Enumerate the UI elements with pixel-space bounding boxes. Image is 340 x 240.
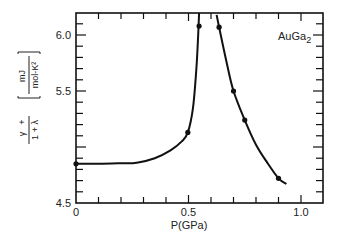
data-curves [76, 13, 286, 184]
y-unit-denominator: mol-K² [30, 62, 40, 89]
series-curve [217, 15, 287, 184]
x-tick-labels: 00.51.0 [73, 206, 309, 218]
x-tick-label: 1.0 [293, 206, 308, 218]
y-unit-bracket-right [18, 52, 40, 54]
y-tick-label: 6.0 [56, 29, 71, 41]
y-title-plus: + [17, 119, 27, 124]
data-point-marker [217, 25, 222, 30]
x-tick-label: 0.5 [181, 206, 196, 218]
x-axis-title: P(GPa) [171, 219, 208, 231]
data-point-marker [231, 88, 236, 93]
data-point-marker [185, 130, 190, 135]
y-axis-title: γ + 1 + λ mJ mol-K² [17, 52, 40, 144]
series-curve [76, 13, 199, 164]
data-point-marker [73, 161, 78, 166]
y-title-gamma: γ [17, 131, 27, 136]
y-tick-label: 5.5 [56, 85, 71, 97]
data-point-marker [242, 118, 247, 123]
y-unit-bracket-left [18, 96, 40, 98]
annotation-text: AuGa [278, 30, 307, 42]
y-unit-numerator: mJ [17, 70, 27, 82]
y-title-denominator: 1 + λ [30, 120, 40, 140]
data-markers [73, 23, 281, 181]
y-tick-labels: 4.55.56.0 [56, 29, 71, 209]
x-tick-label: 0 [73, 206, 79, 218]
annotation-compound: AuGa2 [278, 30, 311, 45]
annotation-subscript: 2 [306, 35, 311, 45]
y-tick-label: 4.5 [56, 197, 71, 209]
chart: 00.51.0 4.55.56.0 P(GPa) AuGa2 γ + 1 + λ… [0, 0, 340, 240]
data-point-marker [276, 176, 281, 181]
data-point-marker [196, 23, 201, 28]
